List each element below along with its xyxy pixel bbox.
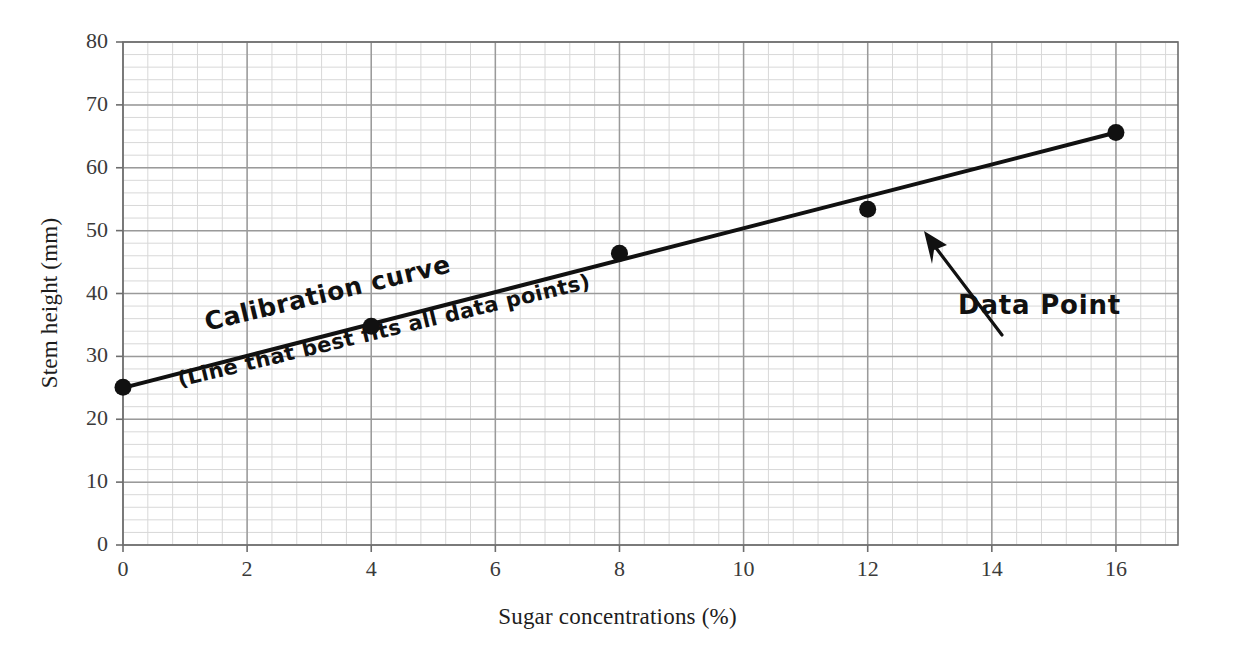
annotation-data-point: Data Point xyxy=(958,290,1121,320)
x-axis-title: Sugar concentrations (%) xyxy=(0,604,1235,630)
x-tick-label: 8 xyxy=(589,556,649,582)
x-tick-label: 2 xyxy=(217,556,277,582)
y-axis-title: Stem height (mm) xyxy=(37,93,63,513)
y-tick-label: 0 xyxy=(48,531,108,557)
x-tick-label: 14 xyxy=(962,556,1022,582)
x-tick-label: 16 xyxy=(1086,556,1146,582)
y-tick-label: 80 xyxy=(48,28,108,54)
x-tick-label: 12 xyxy=(838,556,898,582)
chart-container: 0246810121416 01020304050607080 Sugar co… xyxy=(0,0,1235,657)
x-tick-label: 4 xyxy=(341,556,401,582)
x-tick-label: 10 xyxy=(714,556,774,582)
x-tick-label: 0 xyxy=(93,556,153,582)
x-tick-label: 6 xyxy=(465,556,525,582)
